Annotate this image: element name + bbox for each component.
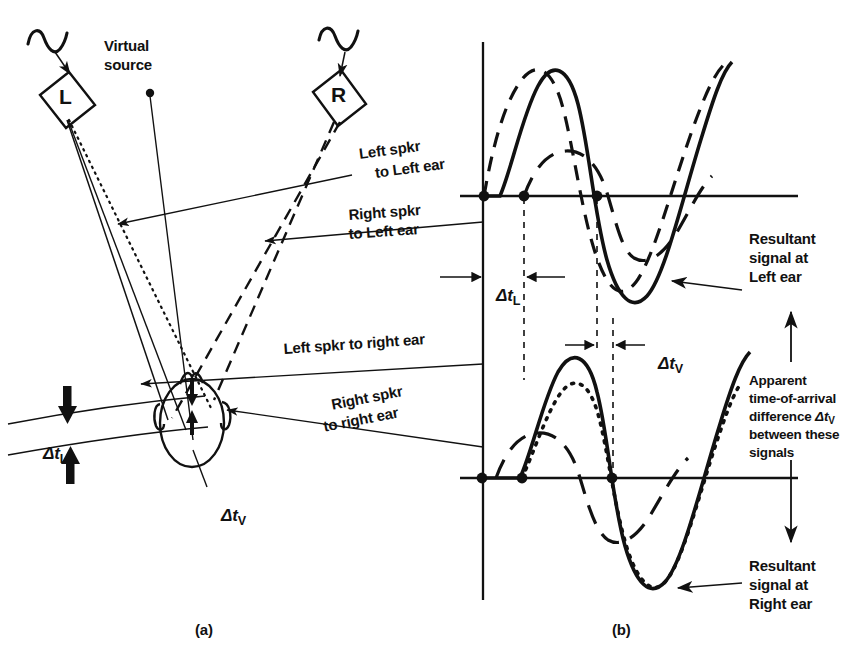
apparent-difference-line4: between these (749, 427, 839, 442)
delta-t-L-arrow-down (58, 386, 77, 424)
apparent-difference-line3-subscript: V (828, 415, 834, 426)
series-left-component-bottom (522, 382, 742, 587)
path-left-spkr-right-ear (69, 120, 212, 410)
panel-a-delta-t-L: ΔtL (34, 425, 67, 466)
resultant-left-ear-line2: signal at (749, 250, 808, 267)
panel-b-label: (b) (612, 622, 631, 639)
virtual-source-label-line2: source (104, 57, 152, 74)
apparent-difference-line3-symbol: Δt (815, 409, 828, 424)
panel-b-delta-t-L: ΔtL (487, 267, 520, 308)
panel-a-delta-t-V: ΔtV (212, 487, 246, 528)
left-source-arrow (55, 52, 70, 74)
sine-wave-icon-left (28, 31, 67, 52)
series-right-component-top (524, 151, 712, 261)
delta-t-V-subscript-b: V (675, 362, 683, 376)
series-right-component-bottom (496, 433, 688, 543)
delta-t-L-subscript: L (60, 452, 67, 466)
figure-root: L R Virtual source Left spkr to Left ear… (0, 0, 859, 669)
resultant-right-ear-line2: signal at (749, 577, 808, 594)
resultant-right-ear-line1: Resultant (749, 558, 816, 575)
apparent-difference-line5: signals (749, 445, 794, 460)
sine-wave-icon-right (319, 28, 358, 50)
path-left-spkr-aux (68, 120, 186, 430)
resultant-left-ear-line1: Resultant (749, 231, 816, 248)
zero-dot-bottom-3 (607, 473, 618, 484)
leader-left-to-left (118, 175, 352, 224)
resultant-right-ear-line3: Right ear (749, 596, 812, 613)
apparent-difference-line1: Apparent (749, 373, 807, 388)
panel-b-delta-t-V: ΔtV (649, 335, 683, 376)
delta-t-V-symbol: Δt (221, 506, 238, 525)
delta-t-V-subscript: V (238, 514, 246, 528)
right-speaker-label: R (331, 83, 346, 107)
delta-t-L-symbol: Δt (43, 444, 60, 463)
apparent-difference-line3: difference ΔtV (749, 409, 835, 426)
delta-t-V-leader (193, 450, 207, 487)
head-inner-arrow-up (186, 410, 198, 435)
virtual-source-dot (146, 89, 154, 97)
zero-dot-bottom-2 (517, 473, 528, 484)
callout-resultant-left (672, 281, 742, 290)
figure-canvas (0, 0, 859, 669)
zero-dot-top-1 (479, 191, 490, 202)
delta-t-L-subscript-b: L (513, 294, 520, 308)
left-speaker-label: L (59, 85, 72, 109)
delta-t-L-symbol-b: Δt (496, 286, 513, 305)
apparent-difference-line3-prefix: difference (749, 409, 815, 424)
series-resultant-right-ear (482, 352, 750, 589)
virtual-source-label-line1: Virtual (104, 38, 149, 55)
panel-a-label: (a) (195, 622, 213, 639)
apparent-difference-line2: time-of-arrival (749, 391, 836, 406)
callout-resultant-right (678, 583, 742, 588)
series-resultant-left-ear (484, 62, 732, 303)
path-left-spkr-left-ear (67, 120, 168, 420)
delta-t-V-symbol-b: Δt (658, 354, 675, 373)
zero-dot-bottom-1 (477, 473, 488, 484)
resultant-left-ear-line3: Left ear (749, 269, 802, 286)
